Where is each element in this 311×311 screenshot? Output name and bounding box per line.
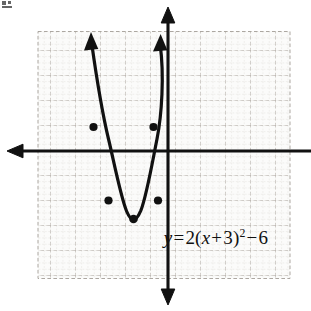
point-right-inner	[154, 196, 162, 204]
equation-annotation: y=2(x+3)2−6	[128, 228, 304, 247]
point-left-outer	[89, 123, 97, 131]
equation-variable: x	[202, 227, 211, 248]
equation-exponent: 2	[239, 227, 245, 240]
equation-shift-value: 3	[223, 227, 233, 248]
graph-figure: y=2(x+3)2−6	[0, 0, 311, 311]
equation-equals: =	[173, 227, 184, 248]
parabola-right-arrowhead	[153, 34, 167, 52]
parabola-left-arrowhead	[84, 32, 98, 51]
parabola-curve	[92, 42, 163, 220]
point-vertex	[129, 215, 138, 224]
equation-y: y	[164, 227, 173, 248]
equation-minus-operator: −	[247, 227, 258, 248]
parabola-layer	[0, 0, 311, 311]
equation-constant: 6	[258, 227, 268, 248]
point-left-inner	[104, 196, 112, 204]
equation-plus-operator: +	[211, 227, 222, 248]
point-right-outer	[149, 123, 157, 131]
equation-coefficient: 2	[185, 227, 195, 248]
